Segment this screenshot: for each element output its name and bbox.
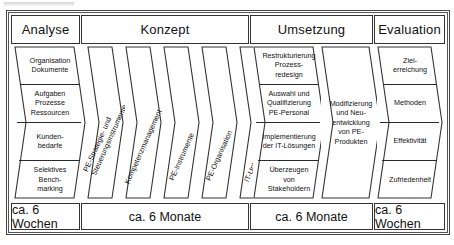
step-evaluation-1-text: Ziel-erreichung <box>393 56 427 75</box>
phase-header-umsetzung[interactable]: Umsetzung <box>250 15 373 44</box>
step-umsetzung-wide-text: Modifizierungund Neu-entwicklungvon PE-P… <box>330 99 373 147</box>
phase-duration-analyse-label: ca. 6 Wochen <box>12 203 79 231</box>
step-evaluation-3[interactable]: Effektivität <box>377 122 443 160</box>
step-konzept-4-text: PE-Organisation <box>204 129 235 182</box>
chevron-konzept-3-labelwrap: PE-Instrumente <box>163 46 200 199</box>
step-analyse-1[interactable]: OrganisationDokumente <box>14 46 86 84</box>
step-analyse-2[interactable]: AufgabenProzesseRessourcen <box>14 84 86 122</box>
step-analyse-4-text: SelektivesBench-marking <box>34 165 67 194</box>
chevron-konzept-1[interactable]: PE-Strategie- undSteuerungsinstrumente <box>87 46 124 199</box>
step-umsetzung-4[interactable]: ÜberzeugenvonStakeholdern <box>253 160 325 199</box>
chevron-konzept-3[interactable]: PE-Instrumente <box>163 46 200 199</box>
chevron-konzept-2-labelwrap: Kompetenzmanagement <box>125 46 162 199</box>
chevron-analyse[interactable]: OrganisationDokumente AufgabenProzesseRe… <box>14 46 86 199</box>
phase-header-evaluation[interactable]: Evaluation <box>374 15 445 44</box>
phase-duration-umsetzung-label: ca. 6 Monate <box>275 210 347 224</box>
step-umsetzung-2[interactable]: Auswahl undQualifizierungPE-Personal <box>253 84 325 122</box>
step-umsetzung-1[interactable]: RestrukturierungProzess-redesign <box>253 46 325 84</box>
phase-duration-konzept[interactable]: ca. 6 Monate <box>81 203 249 230</box>
step-umsetzung-2-text: Auswahl undQualifizierungPE-Personal <box>267 89 311 118</box>
phase-header-analyse[interactable]: Analyse <box>11 15 80 44</box>
step-analyse-1-text: OrganisationDokumente <box>30 56 71 75</box>
phase-header-umsetzung-label: Umsetzung <box>278 22 346 37</box>
step-analyse-3-text: Kunden-bedarfe <box>36 132 63 151</box>
chevron-konzept-4-labelwrap: PE-Organisation <box>201 46 238 199</box>
chevron-umsetzung[interactable]: RestrukturierungProzess-redesign Auswahl… <box>253 46 325 199</box>
step-konzept-2-text: Kompetenzmanagement <box>123 108 164 185</box>
step-evaluation-2-text: Methoden <box>394 98 426 108</box>
chevron-evaluation-cells: Ziel-erreichung Methoden Effektivität Zu… <box>377 46 443 199</box>
step-konzept-3-text: PE-Instrumente <box>167 131 196 182</box>
phase-duration-analyse[interactable]: ca. 6 Wochen <box>11 203 80 230</box>
step-evaluation-4[interactable]: Zufriedenheit <box>377 160 443 199</box>
chevron-umsetzung-wide[interactable]: Modifizierungund Neu-entwicklungvon PE-P… <box>321 46 381 199</box>
step-umsetzung-3-text: Implementierungder IT-Lösungen <box>262 132 316 151</box>
phase-header-konzept-label: Konzept <box>140 22 189 37</box>
step-evaluation-1[interactable]: Ziel-erreichung <box>377 46 443 84</box>
step-umsetzung-wide[interactable]: Modifizierungund Neu-entwicklungvon PE-P… <box>321 46 381 199</box>
chevron-konzept-1-labelwrap: PE-Strategie- undSteuerungsinstrumente <box>87 46 124 199</box>
diagram-canvas: Analyse Konzept Umsetzung Evaluation Org… <box>0 0 454 245</box>
phase-header-analyse-label: Analyse <box>22 22 70 37</box>
phase-duration-umsetzung[interactable]: ca. 6 Monate <box>250 203 373 230</box>
process-flow-area: OrganisationDokumente AufgabenProzesseRe… <box>11 46 443 199</box>
chevron-konzept-4[interactable]: PE-Organisation <box>201 46 238 199</box>
chevron-konzept-2[interactable]: Kompetenzmanagement <box>125 46 162 199</box>
step-analyse-3[interactable]: Kunden-bedarfe <box>14 122 86 160</box>
chevron-umsetzung-wide-cells: Modifizierungund Neu-entwicklungvon PE-P… <box>321 46 381 199</box>
step-umsetzung-1-text: RestrukturierungProzess-redesign <box>262 51 315 80</box>
step-evaluation-2[interactable]: Methoden <box>377 84 443 122</box>
chevron-analyse-cells: OrganisationDokumente AufgabenProzesseRe… <box>14 46 86 199</box>
phase-duration-evaluation[interactable]: ca. 6 Wochen <box>374 203 445 230</box>
step-analyse-2-text: AufgabenProzesseRessourcen <box>31 89 69 118</box>
phase-duration-evaluation-label: ca. 6 Wochen <box>375 203 444 231</box>
phase-duration-konzept-label: ca. 6 Monate <box>129 210 201 224</box>
step-evaluation-3-text: Effektivität <box>393 136 426 146</box>
step-evaluation-4-text: Zufriedenheit <box>389 175 431 185</box>
scan-artifact <box>4 2 74 7</box>
step-konzept-1-text: PE-Strategie- undSteuerungsinstrumente <box>82 99 130 176</box>
chevron-evaluation[interactable]: Ziel-erreichung Methoden Effektivität Zu… <box>377 46 443 199</box>
phase-header-evaluation-label: Evaluation <box>378 22 441 37</box>
step-analyse-4[interactable]: SelektivesBench-marking <box>14 160 86 199</box>
phase-header-konzept[interactable]: Konzept <box>81 15 249 44</box>
step-umsetzung-4-text: ÜberzeugenvonStakeholdern <box>268 165 310 194</box>
chevron-umsetzung-cells: RestrukturierungProzess-redesign Auswahl… <box>253 46 325 199</box>
step-umsetzung-3[interactable]: Implementierungder IT-Lösungen <box>253 122 325 160</box>
